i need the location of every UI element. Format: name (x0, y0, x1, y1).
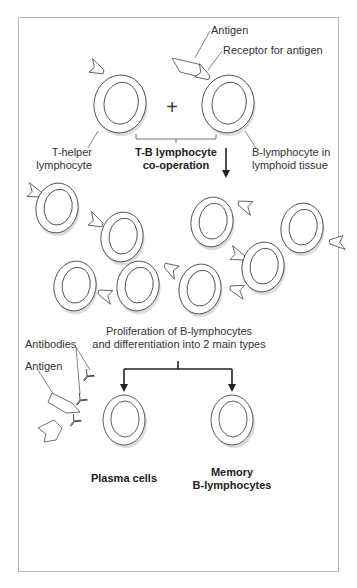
antigen-leader (195, 31, 210, 58)
cooperation-bracket (136, 134, 216, 143)
label-t-helper-2: lymphocyte (32, 159, 92, 172)
label-receptor: Receptor for antigen (223, 44, 323, 57)
proliferating-cells (27, 180, 345, 321)
label-antibodies: Antibodies (25, 338, 76, 351)
memory-cell (211, 395, 255, 448)
label-b-lymph-1: B-lymphocyte in (252, 146, 330, 159)
plasma-cell (103, 395, 147, 448)
label-t-helper-1: T-helper (32, 146, 92, 159)
label-b-lymph-2: lymphoid tissue (252, 159, 328, 172)
t-helper-cell (89, 59, 153, 141)
label-plasma-cells: Plasma cells (74, 472, 174, 485)
label-proliferation-2: and differentiation into 2 main types (80, 338, 278, 351)
label-memory-1: Memory (182, 466, 282, 479)
label-antigen-top: Antigen (211, 24, 248, 37)
label-antigen-bottom: Antigen (25, 360, 62, 373)
diagram-canvas: + (0, 0, 357, 588)
receptor-leader (208, 51, 222, 70)
label-memory-2: B-lymphocytes (182, 479, 282, 492)
label-cooperation-2: co-operation (126, 159, 226, 172)
b-lymphocyte-cell (172, 58, 261, 140)
branch-arrows (124, 361, 232, 386)
label-proliferation-1: Proliferation of B-lymphocytes (80, 325, 278, 338)
plus-sign: + (166, 96, 178, 118)
label-cooperation-1: T-B lymphocyte (126, 146, 226, 159)
